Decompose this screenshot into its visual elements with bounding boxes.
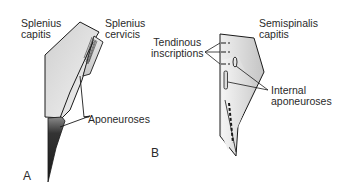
internal-aponeurosis-upper (233, 57, 237, 67)
tendinous-inscriptions-leader-lines (205, 43, 220, 64)
label-splenius-capitis: Splenius capitis (21, 18, 61, 40)
internal-aponeurosis-left (224, 71, 228, 89)
label-aponeuroses: Aponeuroses (88, 114, 150, 125)
panel-a-drawing (45, 22, 103, 182)
panel-b-drawing (205, 34, 268, 156)
label-semispinalis-capitis: Semispinalis capitis (259, 18, 318, 40)
panel-a-letter: A (23, 169, 31, 183)
label-tendinous-inscriptions: Tendinous inscriptions (151, 37, 204, 59)
aponeurosis-tail (48, 117, 65, 182)
label-internal-aponeuroses: Internal aponeuroses (271, 85, 332, 107)
panel-b-letter: B (151, 146, 159, 160)
label-splenius-cervicis: Splenius cervicis (105, 18, 145, 40)
